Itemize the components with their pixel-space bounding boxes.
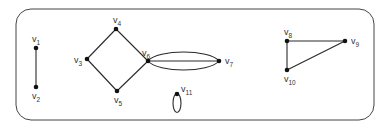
- edge-v11-v11-loop: [173, 94, 181, 113]
- vertex-label-v2: v2: [32, 91, 41, 103]
- vertex-label-v4: v4: [113, 15, 122, 27]
- vertex-v7: [217, 59, 222, 64]
- edge-v6-v7-arc-up: [148, 52, 219, 61]
- vertex-v4: [114, 27, 119, 32]
- vertex-v8: [285, 39, 290, 44]
- vertex-v2: [34, 85, 39, 90]
- vertex-v5: [115, 89, 120, 94]
- vertex-v9: [343, 39, 348, 44]
- edge-v3-v5-line: [87, 59, 117, 91]
- edge-v5-v6-line: [117, 61, 148, 91]
- vertex-label-v11: v11: [181, 84, 193, 96]
- edge-v3-v4-line: [87, 29, 116, 59]
- vertex-label-v3: v3: [74, 55, 83, 67]
- vertex-label-v5: v5: [114, 95, 123, 107]
- vertex-label-v8: v8: [284, 27, 293, 39]
- vertex-v1: [34, 46, 39, 51]
- vertex-v3: [85, 57, 90, 62]
- vertex-label-v7: v7: [225, 56, 234, 68]
- vertex-label-v10: v10: [284, 74, 296, 86]
- vertex-v10: [285, 68, 290, 73]
- vertex-label-v6: v6: [142, 48, 151, 60]
- edge-v9-v10-line: [287, 41, 345, 70]
- vertex-label-v9: v9: [351, 36, 360, 48]
- vertex-v11: [175, 92, 180, 97]
- graph-diagram: v1v2v3v4v5v6v7v8v9v10v11: [0, 0, 390, 128]
- edge-v6-v7-arc-down: [148, 61, 219, 70]
- diagram-frame: [16, 9, 374, 120]
- edges-group: [36, 29, 345, 113]
- vertex-label-v1: v1: [32, 34, 41, 46]
